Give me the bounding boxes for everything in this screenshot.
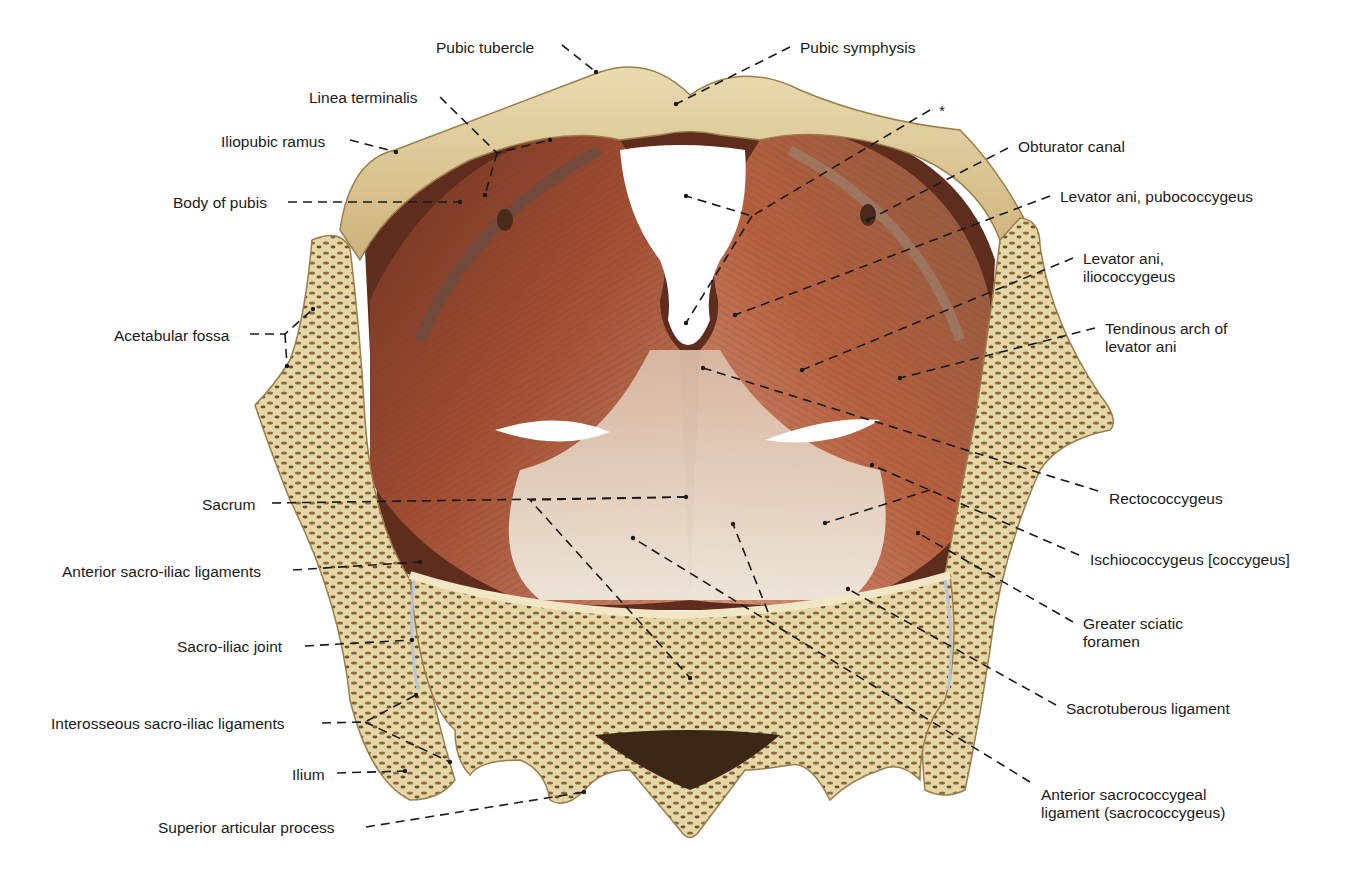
leader-dot (582, 790, 586, 794)
pelvic-floor-figure: Pubic tubercle Linea terminalis Iliopubi… (0, 0, 1370, 883)
leader-dot (731, 522, 735, 526)
label-asterisk: * (939, 102, 945, 120)
label-iliopubic-ramus: Iliopubic ramus (221, 133, 325, 151)
label-levator-ani-pubococcygeus: Levator ani, pubococcygeus (1060, 188, 1253, 206)
label-body-of-pubis: Body of pubis (173, 194, 267, 212)
label-greater-sciatic-foramen: Greater sciatic foramen (1083, 615, 1183, 651)
leader-dot (410, 638, 414, 642)
leader-dot (311, 307, 315, 311)
label-acetabular-fossa: Acetabular fossa (114, 327, 229, 345)
leader-dot (701, 366, 705, 370)
leader-dot (285, 364, 289, 368)
leader-dot (688, 676, 692, 680)
label-tendinous-arch-of-levator-ani: Tendinous arch of levator ani (1105, 320, 1227, 356)
leader-dot (548, 138, 552, 142)
label-pubic-tubercle: Pubic tubercle (436, 39, 534, 57)
label-rectococcygeus: Rectococcygeus (1109, 490, 1223, 508)
obturator-canal-right (860, 204, 876, 226)
label-superior-articular-process: Superior articular process (158, 819, 335, 837)
label-ilium: Ilium (292, 766, 325, 784)
label-linea-terminalis: Linea terminalis (309, 89, 418, 107)
leader-dot (674, 102, 678, 106)
label-ischiococcygeus: Ischiococcygeus [coccygeus] (1090, 551, 1290, 569)
leader-dot (916, 531, 920, 535)
leader-dot (733, 313, 737, 317)
label-levator-ani-iliococcygeus: Levator ani, iliococcygeus (1083, 250, 1175, 286)
label-anterior-sacrococcygeal-ligament: Anterior sacrococcygeal ligament (sacroc… (1041, 786, 1225, 822)
label-interosseous-sacro-iliac-ligaments: Interosseous sacro-iliac ligaments (51, 715, 284, 733)
label-obturator-canal: Obturator canal (1018, 138, 1125, 156)
leader-dot (846, 587, 850, 591)
leader-dot (800, 368, 804, 372)
leader-dot (898, 376, 902, 380)
leader-dot (631, 536, 635, 540)
label-anterior-sacro-iliac-ligaments: Anterior sacro-iliac ligaments (62, 563, 261, 581)
leader-dot (483, 193, 487, 197)
leader-dot (458, 200, 462, 204)
leader-line-superior-articular-process (366, 792, 584, 827)
leader-dot (403, 769, 407, 773)
leader-dot (684, 194, 688, 198)
leader-dot (866, 218, 870, 222)
leader-dot (870, 463, 874, 467)
label-sacrotuberous-ligament: Sacrotuberous ligament (1066, 700, 1230, 718)
leader-line-iliopubic-ramus (350, 140, 396, 152)
leader-dot (414, 693, 418, 697)
label-sacrum: Sacrum (202, 496, 255, 514)
leader-dot (594, 70, 598, 74)
leader-dot (823, 521, 827, 525)
leader-dot (448, 760, 452, 764)
label-pubic-symphysis: Pubic symphysis (800, 39, 915, 57)
obturator-canal-left (497, 209, 513, 231)
leader-dot (418, 560, 422, 564)
leader-line-pubic-tubercle (562, 45, 596, 72)
label-sacro-iliac-joint: Sacro-iliac joint (177, 638, 282, 656)
leader-line-acetabular-fossa (285, 334, 287, 366)
leader-dot (394, 150, 398, 154)
anatomical-illustration (0, 0, 1370, 883)
leader-dot (684, 321, 688, 325)
